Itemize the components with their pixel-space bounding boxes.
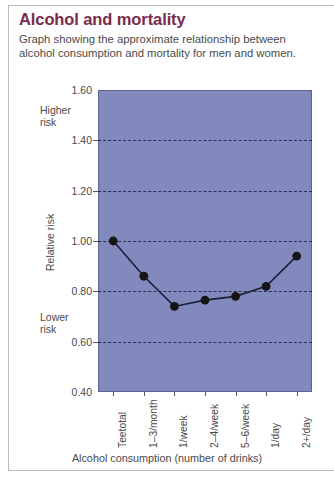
data-point — [170, 302, 179, 311]
higher-risk-annotation: Higher risk — [40, 104, 86, 128]
x-axis-category-label: 1/week — [178, 415, 189, 448]
x-axis-tick-mark — [297, 392, 298, 396]
data-point — [109, 237, 118, 246]
x-axis-tick-mark — [205, 392, 206, 396]
x-axis-category-label: 1–3/month — [148, 399, 159, 448]
data-point — [139, 272, 148, 281]
series-markers — [109, 237, 301, 311]
data-point — [201, 296, 210, 305]
data-point — [262, 282, 271, 291]
y-axis-tick-label: 0.60 — [54, 337, 92, 347]
y-axis-title: Relative risk — [44, 214, 56, 271]
lower-risk-annotation: Lower risk — [40, 311, 86, 335]
x-axis-tick-mark — [266, 392, 267, 396]
y-axis-tick-label: 0.80 — [54, 286, 92, 296]
x-axis-title: Alcohol consumption (number of drinks) — [0, 452, 334, 464]
x-axis-tick-mark — [174, 392, 175, 396]
x-axis-category-label: 1/day — [270, 423, 281, 448]
y-axis-tick-label: 1.20 — [54, 186, 92, 196]
data-point — [231, 292, 240, 301]
y-axis-tick-label: 1.60 — [54, 85, 92, 95]
x-axis-category-label: 5–6/week — [240, 404, 251, 448]
x-axis-tick-mark — [144, 392, 145, 396]
x-axis-tick-mark — [236, 392, 237, 396]
x-axis-category-label: 2+/day — [301, 417, 312, 448]
data-series — [98, 90, 312, 392]
figure-card: Alcohol and mortality Graph showing the … — [0, 0, 334, 481]
x-axis-category-label: 2–4/week — [209, 404, 220, 448]
y-axis-tick-label: 1.00 — [54, 236, 92, 246]
y-axis-tick-label: 0.40 — [54, 387, 92, 397]
line-chart: 1.601.401.201.000.800.600.40 Teetotal1–3… — [0, 0, 334, 481]
x-axis-category-label: Teetotal — [117, 412, 128, 448]
x-axis-tick-mark — [113, 392, 114, 396]
y-axis-tick-label: 1.40 — [54, 135, 92, 145]
data-point — [292, 252, 301, 261]
